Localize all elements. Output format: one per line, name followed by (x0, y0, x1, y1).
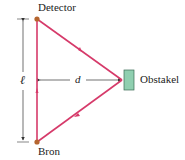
distance-label: d (75, 73, 81, 85)
source-label: Bron (38, 145, 60, 157)
length-label: ℓ (20, 73, 25, 88)
source-dot-icon (34, 139, 39, 144)
obstacle-label: Obstakel (140, 73, 179, 85)
obstacle-block (124, 70, 134, 90)
detector-dot-icon (34, 16, 39, 21)
detector-label: Detector (38, 1, 76, 13)
